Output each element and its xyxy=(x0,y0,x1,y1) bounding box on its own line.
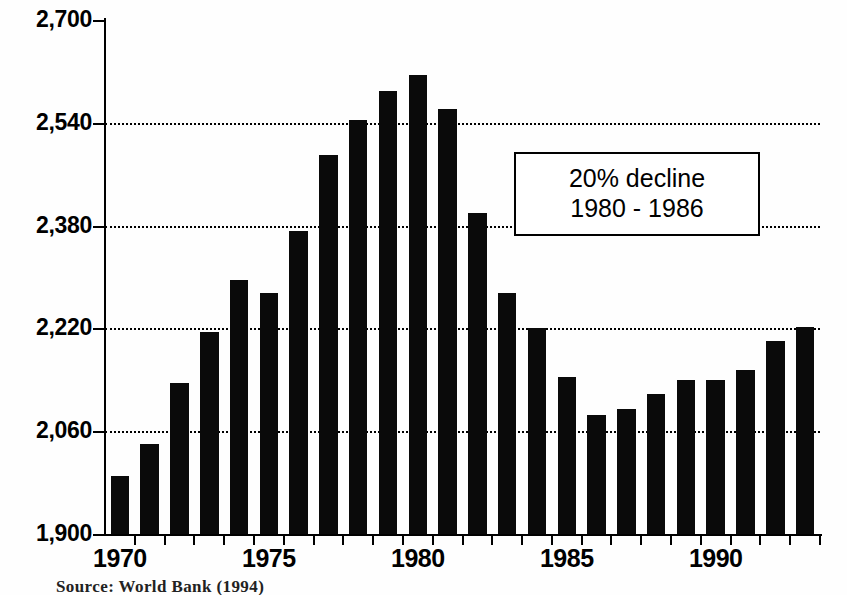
bar-1986 xyxy=(587,415,605,534)
x-axis-label-1975: 1975 xyxy=(242,544,296,573)
y-tick-2700 xyxy=(93,20,105,22)
x-axis-labels: 19701975198019851990 xyxy=(105,544,820,578)
bar-1983 xyxy=(498,293,516,534)
decline-annotation-box: 20% decline 1980 - 1986 xyxy=(514,152,760,236)
bar-chart: 1,900 2,060 2,220 2,380 2,540 2,700 1970… xyxy=(0,0,847,595)
y-axis-label-1: 2,060 xyxy=(36,417,92,444)
y-tick-1900 xyxy=(93,534,105,536)
x-axis-label-1985: 1985 xyxy=(540,544,594,573)
bar-1971 xyxy=(140,444,158,534)
bar-1984 xyxy=(528,328,546,534)
x-axis-label-1980: 1980 xyxy=(391,544,445,573)
bar-1987 xyxy=(617,409,635,534)
annotation-line-1: 20% decline xyxy=(569,163,705,194)
x-axis-label-1970: 1970 xyxy=(93,544,147,573)
y-axis-label-3: 2,380 xyxy=(36,212,92,239)
bar-1980 xyxy=(409,75,427,534)
bar-1973 xyxy=(200,332,218,534)
bar-1991 xyxy=(736,370,754,534)
y-axis-labels: 1,900 2,060 2,220 2,380 2,540 2,700 xyxy=(0,20,100,534)
source-note: Source: World Bank (1994) xyxy=(56,577,264,595)
bar-1970 xyxy=(111,476,129,534)
bar-1979 xyxy=(379,91,397,534)
y-tick-2540 xyxy=(93,123,105,125)
y-axis-label-2: 2,220 xyxy=(36,314,92,341)
bar-1982 xyxy=(468,213,486,534)
x-axis-label-1990: 1990 xyxy=(689,544,743,573)
bar-1992 xyxy=(766,341,784,534)
bar-1975 xyxy=(260,293,278,534)
bar-1977 xyxy=(319,155,337,534)
bar-series xyxy=(105,20,820,534)
bar-1993 xyxy=(796,327,814,534)
y-tick-2220 xyxy=(93,328,105,330)
bar-1990 xyxy=(706,380,724,534)
bar-1985 xyxy=(558,377,576,534)
bar-1972 xyxy=(170,383,188,534)
y-axis-label-5: 2,700 xyxy=(36,6,92,33)
bar-1989 xyxy=(677,380,695,534)
annotation-line-2: 1980 - 1986 xyxy=(570,193,703,224)
y-tick-2380 xyxy=(93,226,105,228)
y-axis-label-4: 2,540 xyxy=(36,109,92,136)
y-tick-2060 xyxy=(93,431,105,433)
bar-1981 xyxy=(438,109,456,534)
y-axis-label-0: 1,900 xyxy=(36,520,92,547)
bar-1988 xyxy=(647,394,665,534)
plot-area xyxy=(105,20,820,534)
bar-1974 xyxy=(230,280,248,534)
bar-1978 xyxy=(349,120,367,534)
bar-1976 xyxy=(289,231,307,534)
